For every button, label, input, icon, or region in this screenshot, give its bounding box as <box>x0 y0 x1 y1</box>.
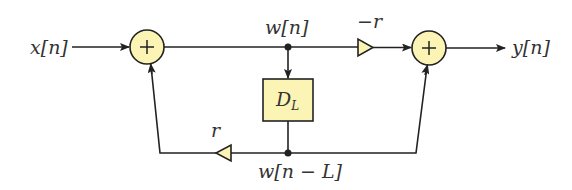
feedback-wire-b <box>151 66 216 153</box>
feedback-gain-triangle <box>216 145 231 161</box>
feedback-arrow <box>151 64 152 74</box>
output-signal-label: y[n] <box>511 36 550 58</box>
forward-gain-label: −r <box>357 10 384 32</box>
input-signal-label: x[n] <box>30 36 68 58</box>
feedback-gain-label: r <box>211 119 222 141</box>
input-adder <box>130 30 164 64</box>
delay-block: DL <box>263 79 313 121</box>
wn-node <box>285 44 292 51</box>
output-adder <box>412 31 446 65</box>
block-diagram: x[n] w[n] −r y[n] DL w[n − L] r <box>0 0 572 190</box>
delayed-signal-label: w[n − L] <box>258 160 343 182</box>
internal-signal-label: w[n] <box>265 16 309 38</box>
forward-gain-triangle <box>358 39 373 56</box>
